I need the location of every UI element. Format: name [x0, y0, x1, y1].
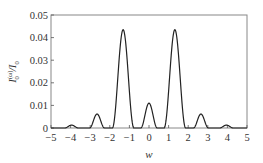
- x-tick-label: −4: [65, 132, 77, 143]
- y-axis: 00.010.020.030.040.05: [30, 10, 54, 134]
- data-series-line: [51, 30, 247, 128]
- svg-text:I(ω)0/I0: I(ω)0/I0: [6, 61, 20, 84]
- x-tick-label: −5: [45, 132, 56, 143]
- x-tick-label: 4: [225, 132, 231, 143]
- y-axis-label: I(ω)0/I0: [6, 61, 20, 84]
- x-tick-label: −3: [85, 132, 96, 143]
- x-tick-label: 3: [205, 132, 210, 143]
- plot-area: [51, 15, 247, 128]
- y-tick-label: 0.04: [30, 32, 49, 43]
- y-tick-label: 0.01: [30, 100, 48, 111]
- x-tick-label: 0: [146, 132, 151, 143]
- y-tick-label: 0.05: [30, 10, 48, 21]
- y-tick-label: 0.03: [30, 55, 48, 66]
- y-tick-label: 0.02: [30, 77, 48, 88]
- x-tick-label: 1: [166, 132, 171, 143]
- x-tick-label: −1: [124, 132, 135, 143]
- x-axis-label: w: [145, 148, 153, 160]
- x-tick-label: −2: [104, 132, 115, 143]
- x-tick-label: 5: [244, 132, 249, 143]
- x-tick-label: 2: [186, 132, 191, 143]
- chart: 00.010.020.030.040.05 −5−4−3−2−1012345 w…: [0, 0, 263, 163]
